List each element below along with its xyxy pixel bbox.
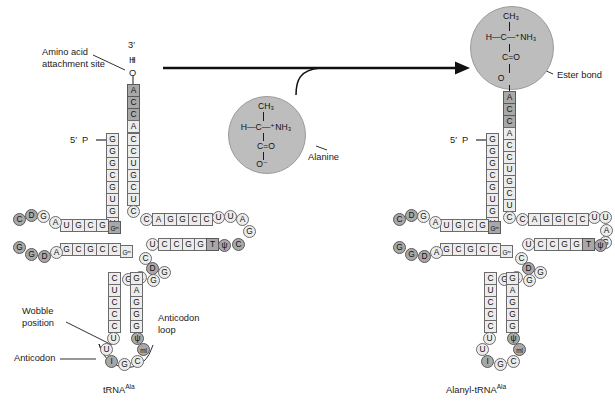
hbonds-r-anticodon-stem	[498, 275, 504, 333]
alanine-transfer-curve	[296, 68, 320, 95]
nt-r-darm-top-end: Gᵐ	[488, 221, 501, 234]
label-wobble-position: Wobble position	[22, 306, 54, 329]
nt-tarm-top-5: C	[200, 213, 213, 226]
hbonds-r-d-stem	[442, 234, 498, 240]
nt-r-dloop-top-3: A	[429, 216, 442, 229]
nt-dloop-bot-1: G	[25, 248, 38, 261]
figure-canvas: Amino acid attachment site 3′ H O 5′ P W…	[0, 0, 615, 407]
alanine-free-carboxylate: O⁻	[238, 159, 286, 169]
nt-r-dloop-bot-1: G	[405, 248, 418, 261]
alanine-free-bond-carboxyl	[263, 152, 264, 160]
alanine-free-bond-carbonyl	[263, 133, 264, 141]
label-trna-left: tRNAAla	[103, 381, 135, 397]
leader-wobble	[66, 322, 112, 345]
nt-tloop-top-0: U	[212, 211, 225, 224]
nt-acstem-r-6: mI	[137, 343, 150, 356]
nt-r-anticodon-1: G	[494, 358, 507, 371]
nt-r-dloop-bot-0: G	[393, 241, 406, 254]
hbonds-r-t-stem	[526, 228, 580, 234]
nt-anticodon-2: C	[131, 355, 144, 368]
alanine-bound-methyl: CH₃	[483, 11, 539, 21]
alanine-free-alpha-carbon: H—C—⁺NH₃	[230, 122, 302, 132]
label-o-atom: O	[129, 68, 136, 80]
nt-tloop-bot-2: C	[232, 238, 245, 251]
nt-r-dloop-bot-3: A	[430, 246, 443, 259]
nt-r-tloop-bot-1: ψ	[594, 239, 607, 252]
nt-dloop-top-3: A	[49, 216, 62, 229]
nt-r-varloop-3: G	[523, 274, 536, 287]
nt-r-acstem-l-4: C	[484, 320, 497, 333]
nt-r-acstem-r-6: mI	[513, 343, 526, 356]
nt-r-varloop-2: G	[534, 266, 547, 279]
label-h-atom: H	[129, 55, 136, 67]
nt-r-anticodon-0: I	[481, 355, 494, 368]
alanine-free-carbonyl: C=O	[238, 141, 294, 151]
alanine-bound-bond-carbonyl	[509, 44, 510, 52]
alanine-free-methyl: CH₃	[238, 101, 294, 111]
label-3-prime: 3′	[128, 40, 135, 52]
nt-r-tarm-top-5: C	[576, 213, 589, 226]
nt-acceptor3-10: C	[127, 205, 140, 218]
hbonds-t-stem	[150, 228, 204, 234]
nt-dloop-bot-0: G	[13, 241, 26, 254]
hbonds-r-acceptor-stem	[500, 136, 504, 228]
nt-varloop-2: G	[158, 266, 171, 279]
alanine-bound-carbonyl: C=O	[483, 52, 539, 62]
nt-r-darm-bot-end: Gᵐ	[500, 245, 513, 258]
label-ester-bond: Ester bond	[557, 70, 602, 82]
alanine-bound-ester-oxygen: O	[483, 73, 519, 83]
leader-alanine	[316, 146, 327, 150]
alanine-bound-alpha-carbon: H—C—⁺NH₃	[473, 32, 549, 42]
label-anticodon: Anticodon	[14, 353, 55, 365]
alanine-bound-bond-ester	[509, 64, 510, 73]
hbonds-d-stem	[62, 234, 118, 240]
label-alanine: Alanine	[308, 152, 339, 164]
nt-darm-bot-end: Gᵐ	[120, 245, 133, 258]
nt-anticodon-0: I	[105, 355, 118, 368]
hbonds-anticodon-stem	[122, 275, 128, 333]
alanine-free-bond-methyl	[263, 112, 264, 121]
label-amino-acid-attachment-site: Amino acid attachment site	[42, 47, 105, 70]
nt-varloop-3: G	[147, 274, 160, 287]
label-5-prime-right: 5′ P	[450, 135, 468, 147]
nt-tloop-top-1: U	[224, 210, 237, 223]
nt-r-anticodon-2: C	[507, 355, 520, 368]
nt-anticodon-1: G	[118, 358, 131, 371]
nt-acstem-l-4: C	[108, 320, 121, 333]
nt-r-tloop-top-1: U	[599, 211, 612, 224]
nt-r-acceptor3-10: C	[503, 211, 516, 224]
alanine-bound-bond-methyl	[509, 22, 510, 31]
nt-tloop-top-3: G	[243, 225, 256, 238]
label-anticodon-loop: Anticodon loop	[158, 313, 199, 336]
nt-tloop-top-2: A	[236, 213, 249, 226]
nt-darm-top-end: Gᵐ	[108, 221, 121, 234]
nt-acceptor3-3: A	[127, 120, 140, 133]
nt-r-tloop-top-2: A	[600, 224, 613, 237]
hbonds-acceptor-stem	[120, 136, 126, 228]
label-trna-right: Alanyl-tRNAAla	[446, 381, 506, 397]
nt-tloop-bot-1: ψ	[218, 239, 231, 252]
nt-dloop-bot-3: A	[50, 246, 63, 259]
label-5-prime-left: 5′ P	[70, 135, 88, 147]
